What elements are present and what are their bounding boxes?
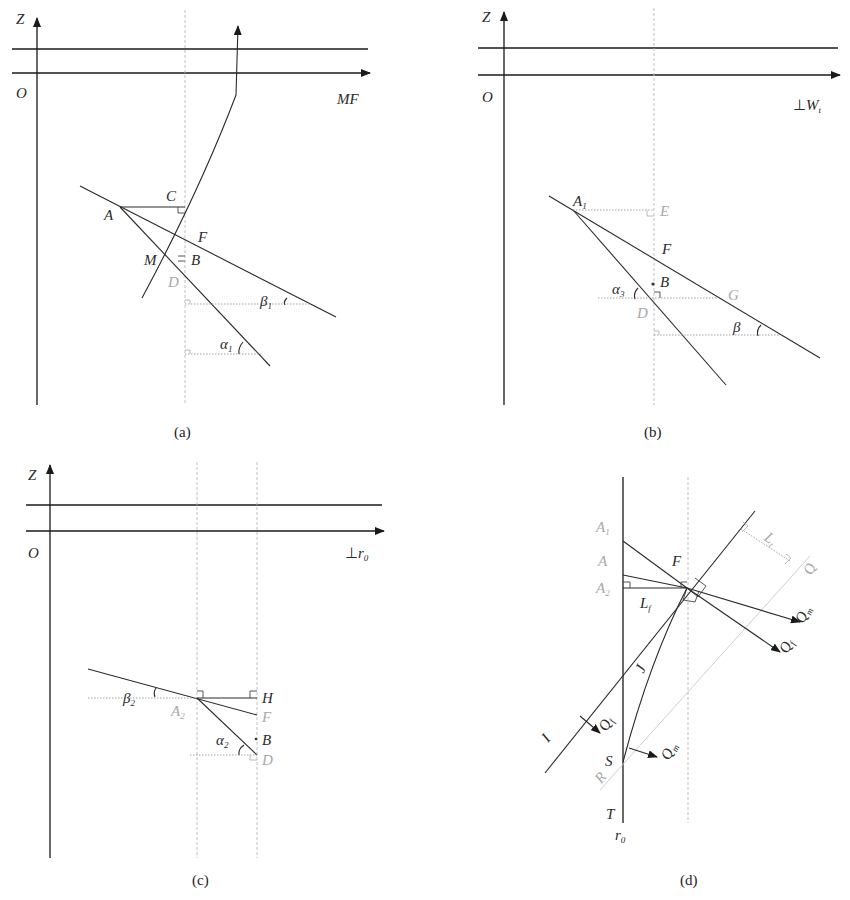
label-beta1: β1 — [259, 293, 272, 311]
line-AD — [120, 207, 270, 366]
label-z: Z — [16, 11, 25, 27]
label-r0: r0 — [615, 827, 626, 845]
label-Qm-upper: Qm — [792, 603, 816, 627]
caption-a: (a) — [174, 424, 191, 441]
label-MF: MF — [336, 91, 359, 107]
angle-arc-beta — [757, 325, 761, 336]
line-A1G — [549, 196, 820, 358]
label-E: E — [659, 203, 669, 219]
label-J: J — [632, 661, 650, 675]
label-alpha3: α3 — [612, 281, 625, 299]
right-angle-C — [178, 207, 185, 213]
right-angle-A2 — [197, 691, 203, 698]
label-Lf: Lf — [639, 595, 652, 613]
label-A: A — [103, 207, 114, 223]
label-C: C — [166, 188, 177, 204]
right-angle-mark — [742, 522, 748, 532]
right-angle-B — [178, 256, 185, 261]
right-angle-D — [654, 292, 660, 298]
caption-b: (b) — [644, 424, 662, 441]
label-origin: O — [16, 85, 27, 101]
label-origin: O — [482, 89, 493, 105]
angle-arc-beta1 — [284, 298, 287, 305]
right-angle-E — [647, 210, 654, 216]
label-beta2: β2 — [122, 690, 135, 708]
label-origin: O — [28, 545, 39, 561]
figure-canvas: Z O MF C A F M B D β1 α1 (a) Z O ⊥Wt A1 … — [0, 0, 850, 900]
curve-J — [623, 588, 687, 762]
caption-d: (d) — [680, 872, 698, 889]
label-T: T — [606, 806, 616, 822]
dimension-Lt — [741, 529, 790, 561]
label-axis-perp-Wt: ⊥Wt — [793, 97, 822, 115]
panel-b: Z O ⊥Wt A1 E F B G α3 D β (b) — [478, 8, 840, 441]
line-RQ — [600, 556, 810, 790]
label-A1: A1 — [572, 193, 587, 211]
right-angle-mark — [654, 331, 659, 335]
label-A: A — [597, 553, 608, 569]
label-F: F — [261, 709, 272, 725]
label-F: F — [671, 553, 682, 569]
label-F: F — [197, 229, 208, 245]
panel-a: Z O MF C A F M B D β1 α1 (a) — [12, 10, 370, 441]
label-H: H — [261, 690, 274, 706]
label-axis-perp-r0: ⊥r0 — [345, 545, 369, 563]
right-angle-mark — [185, 350, 190, 354]
angle-arc-alpha1 — [239, 342, 243, 354]
vector-Qm-upper — [687, 588, 800, 622]
angle-arc-alpha3 — [634, 288, 638, 299]
label-z: Z — [28, 467, 37, 483]
label-A1: A1 — [595, 519, 610, 537]
label-B: B — [262, 732, 271, 748]
panel-c: Z O ⊥r0 β2 A2 H F α2 B D (c) — [26, 462, 384, 889]
label-G: G — [728, 287, 739, 303]
angle-arc-alpha2 — [239, 745, 244, 755]
right-angle-mark — [785, 554, 791, 564]
label-D: D — [167, 274, 179, 290]
label-D: D — [261, 752, 273, 768]
line-A1D — [573, 210, 726, 385]
label-beta: β — [732, 319, 741, 335]
label-R: R — [591, 769, 610, 787]
right-angle-H — [250, 691, 257, 698]
point-B — [651, 282, 654, 285]
right-angle-mark — [185, 300, 190, 304]
label-z: Z — [482, 9, 491, 25]
label-alpha2: α2 — [216, 732, 229, 750]
label-Lt: Lt — [760, 528, 780, 550]
label-M: M — [143, 252, 158, 268]
line-AF — [80, 186, 336, 317]
label-Qf-upper: Qf — [776, 635, 799, 656]
label-Q-point: Q — [800, 561, 819, 577]
caption-c: (c) — [192, 872, 209, 889]
label-alpha1: α1 — [220, 336, 232, 354]
angle-arc-beta2 — [154, 688, 156, 697]
panel-d: A1 A A2 F Lf Lt Q Qm Qf J I Qf Qm S R T … — [537, 477, 818, 889]
label-I: I — [537, 730, 554, 746]
label-B: B — [191, 252, 200, 268]
label-F: F — [661, 241, 672, 257]
label-D: D — [636, 305, 648, 321]
right-angle-A2 — [623, 582, 630, 588]
label-S: S — [605, 753, 613, 769]
label-B: B — [660, 274, 669, 290]
right-angle-D — [250, 755, 257, 760]
vector-Qf-upper — [687, 588, 780, 652]
label-A2: A2 — [170, 703, 185, 721]
label-A2: A2 — [595, 580, 610, 598]
label-Qm-lower: Qm — [658, 739, 682, 763]
label-Qf-lower: Qf — [595, 713, 618, 734]
point-B — [255, 738, 258, 741]
